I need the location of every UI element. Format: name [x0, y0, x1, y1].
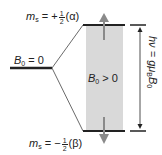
label-eq: = − — [42, 137, 61, 149]
label-eq: = + — [39, 10, 58, 22]
frac-num: 1 — [62, 137, 68, 145]
frac-num: 1 — [59, 10, 65, 18]
field-region-label: B0 > 0 — [88, 73, 118, 85]
label-rest: = 0 — [25, 54, 44, 66]
label-state: (β) — [69, 137, 83, 149]
label-hv: hν = gμ — [147, 36, 159, 72]
split-line-up — [52, 25, 83, 68]
degenerate-level-label: B0 = 0 — [14, 55, 44, 67]
fraction: 12 — [62, 137, 68, 152]
energy-gap-label: hν = gμBB0 — [146, 36, 158, 88]
label-rest: > 0 — [99, 72, 118, 84]
fraction: 12 — [59, 10, 65, 25]
diagram-canvas — [0, 0, 162, 155]
frac-den: 2 — [59, 18, 65, 25]
label-state: (α) — [66, 10, 80, 22]
split-line-down — [52, 68, 83, 131]
lower-level-label: ms = −12(β) — [29, 137, 82, 152]
upper-level-label: ms = +12(α) — [26, 10, 79, 25]
label-m: m — [29, 137, 38, 149]
label-sub-0: 0 — [146, 84, 153, 88]
energy-gap-arrow-icon — [138, 27, 143, 129]
label-m: m — [26, 10, 35, 22]
frac-den: 2 — [62, 145, 68, 152]
